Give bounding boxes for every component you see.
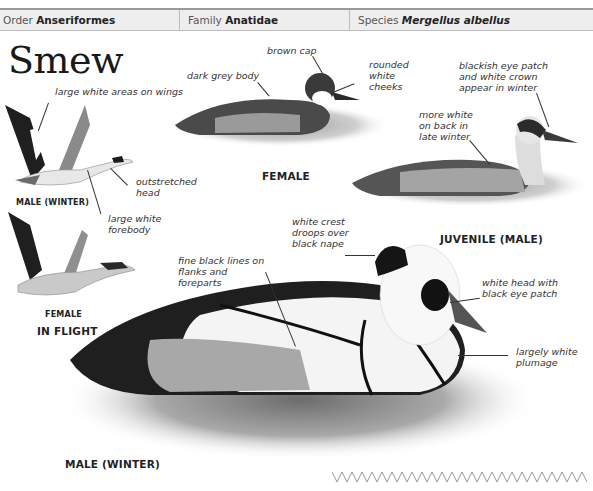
zigzag-divider-icon [332,470,592,484]
male-winter-illustration [60,245,540,460]
female-illustration [170,73,390,147]
annotation-brown-cap: brown cap [267,45,317,56]
annotation-eye-patch-crown: blackish eye patch and white crown appea… [459,60,549,93]
caption-flight-female: FEMALE [45,310,82,319]
annotation-wing-areas: large white areas on wings [55,86,183,97]
caption-male-winter: MALE (WINTER) [65,458,160,470]
annotation-white-head: white head with black eye patch [482,277,564,299]
leader-line [345,255,375,256]
annotation-white-crest: white crest droops over black nape [292,216,358,249]
annotation-white-back: more white on back in late winter [419,109,481,142]
caption-flight-male: MALE (WINTER) [16,198,89,207]
annotation-outstretched-head: outstretched head [136,176,196,198]
caption-in-flight: IN FLIGHT [37,325,98,337]
annotation-dark-grey-body: dark grey body [187,70,259,81]
leader-line [458,355,508,356]
annotation-fine-black-lines: fine black lines on flanks and foreparts [178,255,270,288]
annotation-largely-white-plumage: largely white plumage [516,346,578,368]
annotation-white-forebody: large white forebody [108,213,168,235]
caption-juvenile-male: JUVENILE (MALE) [440,233,543,245]
annotation-white-cheeks: rounded white cheeks [369,59,417,92]
caption-female: FEMALE [262,170,310,182]
